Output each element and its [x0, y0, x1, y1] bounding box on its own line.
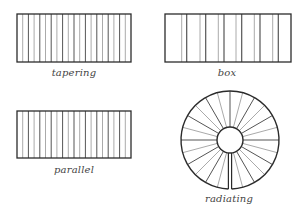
spoke-line	[233, 93, 242, 128]
outline	[165, 14, 291, 62]
spoke-line	[183, 127, 218, 136]
inner-circle	[217, 127, 243, 153]
box-stair-diagram	[165, 14, 291, 62]
parallel-stair-diagram	[17, 111, 131, 158]
spoke-line	[233, 153, 242, 188]
spoke-line	[183, 143, 218, 152]
radiating-label: radiating	[205, 193, 253, 204]
radiating-stair-diagram	[181, 91, 279, 189]
tapering-label: tapering	[52, 67, 97, 78]
spoke-line	[217, 93, 226, 128]
stair-types-diagram	[0, 0, 305, 207]
box-label: box	[218, 67, 237, 78]
spoke-line	[217, 153, 226, 188]
spoke-line	[243, 127, 278, 136]
parallel-label: parallel	[54, 164, 94, 175]
spoke-line	[243, 143, 278, 152]
tapering-stair-diagram	[17, 14, 131, 62]
